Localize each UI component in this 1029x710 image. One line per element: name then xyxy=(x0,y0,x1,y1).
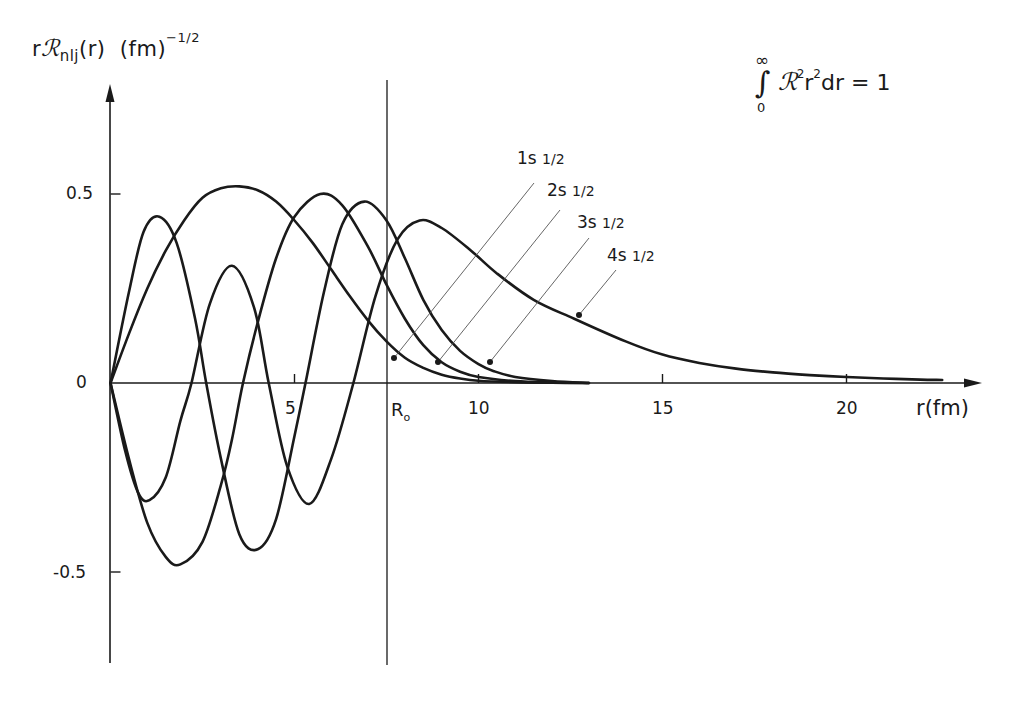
y-title-script-r: ℛ xyxy=(41,35,60,61)
norm-rest: dr = 1 xyxy=(821,70,890,95)
y-title-sub: nlj xyxy=(60,47,79,65)
norm-script-r: ℛ xyxy=(778,68,797,96)
marker-2s xyxy=(435,359,441,365)
y-tick-label-0.5: 0.5 xyxy=(66,183,93,203)
y-title-prefix: r xyxy=(32,37,41,61)
marked-points xyxy=(391,312,582,365)
normalization-formula: ∞ ∫ 0 ℛ2r2dr = 1 xyxy=(755,62,890,97)
integral-lower-limit: 0 xyxy=(757,100,765,115)
marker-1s xyxy=(391,355,397,361)
state-label-2s: 2s 1/2 xyxy=(547,180,595,200)
x-axis-arrow-icon xyxy=(964,379,982,388)
state-label-4s-main: 4s xyxy=(607,245,632,265)
marker-4s xyxy=(576,312,582,318)
x-tick-label-5: 5 xyxy=(285,398,296,418)
norm-sup-2: 2 xyxy=(813,67,821,81)
x-tick-label-20: 20 xyxy=(836,398,858,418)
marker-3s xyxy=(487,359,493,365)
y-axis-title: rℛnlj(r) (fm)−1/2 xyxy=(32,30,200,65)
integral-icon: ∫ xyxy=(755,65,771,100)
leader-line-3s xyxy=(490,238,589,362)
r0-sub: o xyxy=(404,411,411,424)
leader-line-1s xyxy=(394,183,534,358)
state-label-1s-frac: 1/2 xyxy=(542,151,565,167)
y-tick-label-neg-0.5: -0.5 xyxy=(53,562,86,582)
state-label-1s-main: 1s xyxy=(517,148,542,168)
state-label-1s: 1s 1/2 xyxy=(517,148,565,168)
r0-label: Ro xyxy=(391,399,410,424)
x-tick-label-15: 15 xyxy=(652,398,674,418)
curve-3s-1-2 xyxy=(111,202,589,551)
chart-plot-area xyxy=(0,0,1029,710)
norm-r: r xyxy=(804,70,813,95)
y-axis-arrow-icon xyxy=(106,84,115,102)
y-tick-label-0: 0 xyxy=(76,372,87,392)
curve-2s-1-2 xyxy=(111,194,589,566)
y-title-sup: −1/2 xyxy=(166,30,200,45)
state-label-4s-frac: 1/2 xyxy=(632,248,655,264)
leader-line-4s xyxy=(579,270,616,315)
curves xyxy=(111,186,943,565)
state-label-4s: 4s 1/2 xyxy=(607,245,655,265)
leader-lines xyxy=(394,183,616,362)
x-tick-label-10: 10 xyxy=(468,398,490,418)
state-label-3s: 3s 1/2 xyxy=(577,212,625,232)
x-axis-title: r(fm) xyxy=(916,396,969,420)
state-label-3s-main: 3s xyxy=(577,212,602,232)
state-label-2s-main: 2s xyxy=(547,180,572,200)
state-label-3s-frac: 1/2 xyxy=(602,215,625,231)
leader-line-2s xyxy=(438,210,560,362)
y-title-mid: (r) (fm) xyxy=(79,37,166,61)
curve-4s-1-2 xyxy=(111,220,943,504)
state-label-2s-frac: 1/2 xyxy=(572,183,595,199)
r0-main: R xyxy=(391,399,404,420)
